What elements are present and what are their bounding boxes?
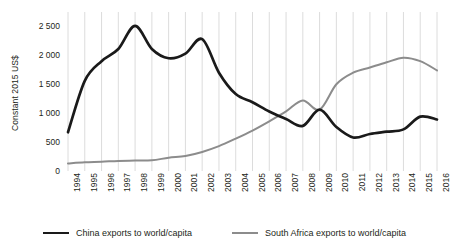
x-axis-tick-label: 1995 xyxy=(89,173,99,192)
line-swatch-black-icon xyxy=(43,232,69,234)
chart-legend: China exports to world/capita South Afri… xyxy=(0,222,449,244)
legend-item-south-africa[interactable]: South Africa exports to world/capita xyxy=(232,228,406,238)
y-axis-tick-label: 2 500 xyxy=(26,21,60,31)
x-axis-tick-label: 2002 xyxy=(206,173,216,192)
legend-label-china: China exports to world/capita xyxy=(76,228,192,238)
x-axis-tick-label: 2008 xyxy=(307,173,317,192)
x-axis-tick-label: 2014 xyxy=(407,173,417,192)
x-axis-tick-label: 2007 xyxy=(290,173,300,192)
x-axis-tick-label: 2011 xyxy=(357,173,367,191)
plot-svg xyxy=(65,12,440,171)
x-axis-tick-label: 2016 xyxy=(441,173,451,192)
x-axis-tick-label: 2005 xyxy=(257,173,267,192)
plot-area xyxy=(65,12,440,171)
y-axis-tick-label: 500 xyxy=(26,137,60,147)
y-axis-tick-label: 1 500 xyxy=(26,79,60,89)
x-axis-tick-label: 1994 xyxy=(72,173,82,192)
x-axis-tick-label: 2009 xyxy=(324,173,334,192)
legend-item-china[interactable]: China exports to world/capita xyxy=(43,228,192,238)
y-axis-tick-label: 1 000 xyxy=(26,108,60,118)
y-axis-tick-label: 0 xyxy=(26,166,60,176)
x-axis-tick-label: 2015 xyxy=(424,173,434,192)
vertical-gridlines xyxy=(68,12,437,171)
x-axis-tick-label: 1998 xyxy=(139,173,149,192)
x-axis-tick-label: 2001 xyxy=(189,173,199,192)
x-axis-tick-label: 2012 xyxy=(374,173,384,192)
x-axis-tick-label: 2006 xyxy=(273,173,283,192)
legend-label-south-africa: South Africa exports to world/capita xyxy=(265,228,406,238)
y-axis-tick-label: 2 000 xyxy=(26,50,60,60)
line-swatch-gray-icon xyxy=(232,232,258,234)
x-axis-tick-label: 1999 xyxy=(156,173,166,192)
x-axis-tick-label: 2000 xyxy=(173,173,183,192)
x-axis-tick-label: 1996 xyxy=(106,173,116,192)
x-axis-tick-label: 2004 xyxy=(240,173,250,192)
x-axis-tick-label: 2003 xyxy=(223,173,233,192)
x-axis-tick-label: 1997 xyxy=(122,173,132,192)
x-axis-tick-label: 2013 xyxy=(391,173,401,192)
x-axis-tick-label: 2010 xyxy=(340,173,350,192)
y-axis-tick-labels: 05001 0001 5002 0002 500 xyxy=(24,0,60,250)
x-axis-tick-labels: 1994199519961997199819992000200120022003… xyxy=(65,173,440,213)
